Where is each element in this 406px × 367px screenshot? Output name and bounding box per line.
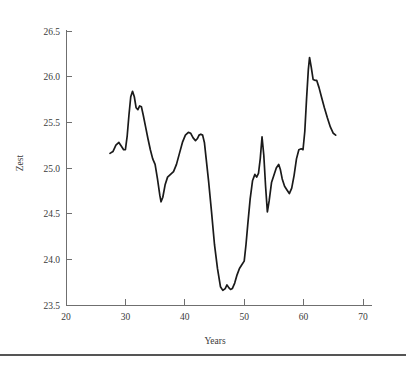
y-tick-label: 23.5	[43, 301, 60, 311]
x-tick-label: 30	[121, 312, 131, 322]
y-axis-ticks	[66, 31, 72, 305]
x-tick-label: 40	[180, 312, 190, 322]
x-axis-title: Years	[204, 336, 226, 346]
x-tick-label: 50	[239, 312, 249, 322]
chart-figure: 23.5 24.0 24.5 25.0 25.5 26.0 26.5 20 30…	[0, 0, 406, 367]
y-tick-label: 26.0	[43, 72, 60, 82]
line-chart-svg: 23.5 24.0 24.5 25.0 25.5 26.0 26.5 20 30…	[0, 0, 406, 367]
y-tick-label: 25.0	[43, 164, 60, 174]
x-tick-label: 60	[299, 312, 309, 322]
data-series-line	[110, 57, 336, 290]
y-tick-label: 24.0	[43, 255, 60, 265]
y-axis-tick-labels: 23.5 24.0 24.5 25.0 25.5 26.0 26.5	[43, 27, 60, 311]
x-tick-label: 20	[61, 312, 71, 322]
x-axis-tick-labels: 20 30 40 50 60 70	[61, 312, 368, 322]
y-tick-label: 25.5	[43, 118, 60, 128]
y-axis-title: Zest	[15, 154, 25, 171]
x-axis-ticks	[66, 299, 363, 305]
y-tick-label: 26.5	[43, 27, 60, 37]
y-tick-label: 24.5	[43, 209, 60, 219]
x-tick-label: 70	[358, 312, 368, 322]
